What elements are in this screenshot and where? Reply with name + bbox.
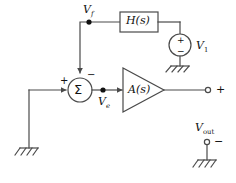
label-vout-sub: out [203, 128, 214, 136]
label-feedback-block: H(s) [126, 15, 150, 26]
output-terminal-negative[interactable] [204, 139, 209, 144]
ground-symbol-left [15, 148, 38, 155]
label-ve: Ve [98, 96, 110, 110]
label-vf-main: V [83, 3, 91, 16]
label-vf: Vf [83, 4, 93, 18]
label-ve-main: V [98, 95, 106, 108]
source-minus-sign: − [177, 47, 185, 56]
output-positive-sign: + [216, 84, 225, 95]
label-v1-main: V [196, 39, 204, 52]
label-vout-main: V [195, 121, 203, 134]
diagram-vector-layer [0, 0, 236, 183]
label-vout: Vout [195, 122, 214, 136]
summing-junction-symbol: Σ [74, 83, 82, 96]
label-as-arg: (s) [136, 83, 150, 96]
label-v1-sub: 1 [204, 46, 208, 54]
node-dot-vf [86, 19, 91, 24]
label-ve-sub: e [106, 102, 110, 110]
label-v1: V1 [196, 40, 208, 54]
label-hs-main: H [126, 14, 136, 27]
sum-input-minus-sign: − [87, 70, 95, 80]
ground-symbol-source [166, 66, 189, 72]
node-dot-ve [100, 87, 105, 92]
output-negative-sign: − [214, 136, 223, 147]
label-as-main: A [128, 83, 136, 96]
label-vf-sub: f [91, 10, 94, 18]
wire-feedback-to-sum [80, 22, 89, 73]
source-plus-sign: + [177, 36, 185, 45]
circuit-diagram-canvas: Vf H(s) + − V1 + − Σ Ve A(s) + Vout − [0, 0, 236, 183]
sum-input-plus-sign: + [60, 76, 68, 86]
ground-symbol-output [193, 160, 216, 167]
label-hs-arg: (s) [136, 14, 150, 27]
label-amplifier: A(s) [128, 84, 150, 95]
output-terminal-positive[interactable] [205, 87, 210, 92]
